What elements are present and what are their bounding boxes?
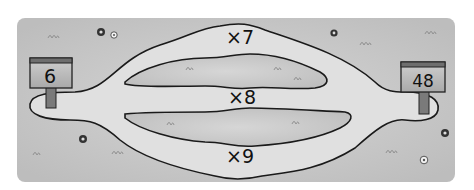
flower-icon [111, 32, 117, 38]
puzzle-illustration: ×7 ×8 ×9 6 48 [0, 0, 474, 190]
flower-icon [79, 135, 87, 143]
start-value: 6 [44, 65, 56, 87]
end-value: 48 [412, 71, 434, 91]
flower-icon [441, 129, 449, 137]
path-label-top: ×7 [226, 26, 254, 48]
path-label-middle: ×8 [228, 86, 256, 108]
flower-icon [97, 28, 105, 36]
flower-icon [420, 156, 428, 164]
path-label-bottom: ×9 [226, 145, 254, 167]
flower-icon [330, 29, 337, 36]
